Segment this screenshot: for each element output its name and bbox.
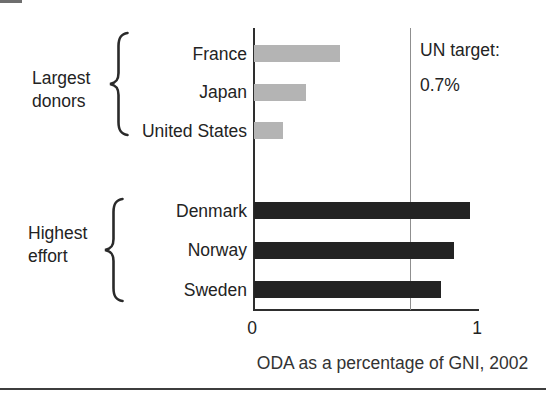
x-tick-zero: 0 (238, 318, 266, 339)
bar-norway (254, 242, 454, 259)
x-axis-line (253, 309, 479, 311)
bar-label-norway: Norway (188, 240, 247, 261)
page-edge-mark (0, 0, 22, 3)
bar-united-states (254, 122, 283, 139)
bar-denmark (254, 202, 470, 219)
un-target-line (410, 28, 411, 310)
bar-label-france: France (193, 43, 247, 64)
bar-label-japan: Japan (199, 82, 247, 103)
bar-label-denmark: Denmark (176, 200, 247, 221)
chart-row-united-states: United States (0, 122, 546, 139)
x-tick-one: 1 (463, 318, 491, 339)
bar-sweden (254, 281, 441, 298)
bar-label-united-states: United States (142, 120, 247, 141)
un-target-value: 0.7% (420, 68, 500, 103)
x-axis-title: ODA as a percentage of GNI, 2002 (252, 353, 533, 374)
un-target-label: UN target: (420, 33, 500, 68)
chart-row-sweden: Sweden (0, 281, 546, 298)
oda-bar-chart-figure: Largest donors Highest effort FranceJapa… (0, 0, 546, 398)
chart-row-norway: Norway (0, 242, 546, 259)
un-target-annotation: UN target: 0.7% (420, 33, 500, 103)
chart-row-denmark: Denmark (0, 202, 546, 219)
bar-france (254, 45, 340, 62)
bar-label-sweden: Sweden (184, 279, 247, 300)
bar-japan (254, 84, 306, 101)
bottom-rule (0, 388, 546, 390)
y-axis-line (253, 28, 255, 311)
